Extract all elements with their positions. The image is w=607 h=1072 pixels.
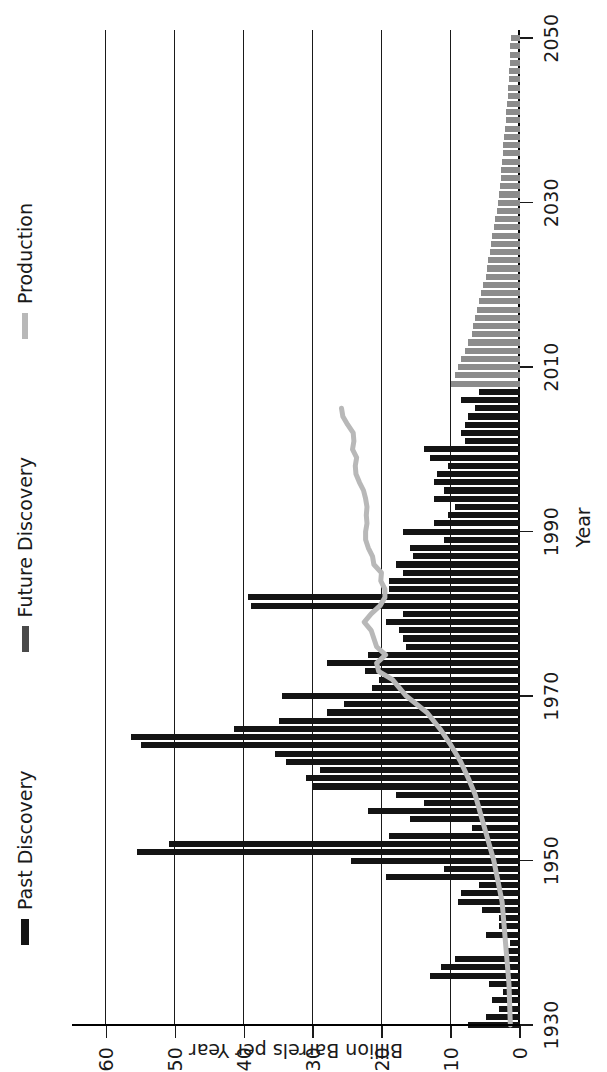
- legend-entry-past-discovery: Past Discovery: [14, 770, 36, 945]
- year-tick-label-1990: 1990: [540, 507, 562, 556]
- value-tick-60: [106, 1025, 108, 1038]
- bar-1949: [444, 866, 520, 872]
- value-tick-label-0: 0: [509, 1047, 531, 1059]
- bar-2030: [498, 200, 520, 206]
- bar-1948: [386, 874, 520, 880]
- bar-2009: [455, 372, 520, 378]
- year-tick-1990: [520, 531, 533, 533]
- bar-2017: [477, 307, 520, 313]
- bar-2010: [458, 364, 520, 370]
- bar-2020: [483, 282, 520, 288]
- bar-2041: [506, 109, 520, 115]
- bar-1956: [368, 808, 520, 814]
- bar-1981: [251, 603, 520, 609]
- bar-1987: [413, 553, 520, 559]
- value-tick-30: [312, 1025, 314, 1038]
- value-tick-0: [519, 1025, 521, 1038]
- year-axis-line: [72, 1024, 520, 1026]
- legend-swatch-production-icon: [22, 313, 28, 339]
- bar-2028: [495, 216, 520, 222]
- bar-1986: [396, 561, 520, 567]
- bar-1940: [510, 940, 520, 946]
- legend-entry-future-discovery: Future Discovery: [14, 457, 36, 652]
- bar-1968: [327, 710, 520, 716]
- bar-2003: [465, 422, 520, 428]
- bar-1970: [282, 693, 520, 699]
- legend-label-production: Production: [14, 203, 36, 304]
- bar-2018: [479, 298, 520, 304]
- value-axis-title: Billion Barrels per Year: [189, 1040, 403, 1062]
- bar-2008: [451, 381, 520, 387]
- bar-1971: [372, 685, 520, 691]
- year-tick-label-1950: 1950: [540, 836, 562, 885]
- bar-1969: [344, 701, 520, 707]
- bar-1958: [396, 792, 520, 798]
- gridline-60: [105, 30, 106, 1025]
- year-tick-1970: [520, 695, 533, 697]
- bar-2032: [500, 183, 520, 189]
- bar-1937: [441, 964, 520, 970]
- bar-1983: [389, 586, 520, 592]
- year-tick-2010: [520, 366, 533, 368]
- bar-2029: [497, 208, 520, 214]
- bar-1997: [437, 471, 520, 477]
- bar-2035: [502, 159, 520, 165]
- value-tick-10: [450, 1025, 452, 1038]
- bar-2014: [472, 331, 520, 337]
- bar-2033: [501, 175, 520, 181]
- value-tick-20: [381, 1025, 383, 1038]
- bar-1953: [389, 833, 520, 839]
- bar-2050: [511, 35, 520, 41]
- bar-1944: [482, 907, 520, 913]
- year-tick-1930: [520, 1024, 533, 1026]
- bar-1990: [403, 529, 520, 535]
- year-axis-title: Year: [572, 507, 594, 547]
- bar-2011: [461, 356, 520, 362]
- year-tick-label-2030: 2030: [540, 178, 562, 227]
- bar-1994: [434, 496, 520, 502]
- bar-1962: [286, 759, 520, 765]
- bar-1989: [444, 537, 520, 543]
- bar-1932: [499, 1006, 520, 1012]
- bar-1980: [403, 611, 520, 617]
- bar-1951: [137, 849, 520, 855]
- bar-2016: [475, 315, 520, 321]
- chart-legend: Past Discovery Future Discovery Producti…: [14, 203, 36, 945]
- year-tick-label-1970: 1970: [540, 672, 562, 721]
- bar-1946: [461, 890, 520, 896]
- bar-1961: [320, 767, 520, 773]
- bar-1963: [275, 751, 520, 757]
- bar-2038: [504, 134, 520, 140]
- bar-1998: [448, 463, 520, 469]
- bar-1993: [455, 504, 520, 510]
- bar-1978: [399, 627, 520, 633]
- bar-2013: [468, 339, 520, 345]
- bar-1999: [430, 455, 520, 461]
- bar-1991: [434, 520, 520, 526]
- bar-1972: [379, 677, 520, 683]
- bar-1975: [368, 652, 520, 658]
- year-tick-label-1930: 1930: [540, 1000, 562, 1049]
- bar-1931: [486, 1014, 520, 1020]
- gridline-30: [312, 30, 313, 1025]
- bar-1992: [448, 512, 520, 518]
- bar-1974: [327, 660, 520, 666]
- bar-1954: [472, 825, 520, 831]
- gridline-50: [174, 30, 175, 1025]
- bar-2031: [499, 191, 520, 197]
- gridline-40: [243, 30, 244, 1025]
- bar-2036: [503, 150, 520, 156]
- bar-1977: [403, 635, 520, 641]
- bar-2025: [491, 241, 520, 247]
- bar-1933: [492, 997, 520, 1003]
- bar-1938: [455, 956, 520, 962]
- bar-1973: [365, 668, 520, 674]
- bar-1964: [141, 742, 520, 748]
- value-tick-label-60: 60: [95, 1047, 117, 1072]
- bar-1995: [444, 487, 520, 493]
- bar-1982: [248, 594, 520, 600]
- bar-2019: [481, 290, 520, 296]
- plot-area: [72, 30, 520, 1025]
- bar-2048: [510, 52, 520, 58]
- bar-2021: [486, 274, 520, 280]
